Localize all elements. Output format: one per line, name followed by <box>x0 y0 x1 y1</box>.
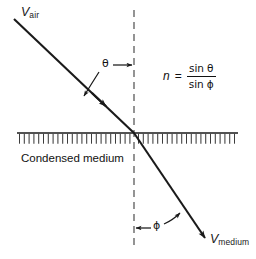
refracted-ray <box>134 133 205 238</box>
refractive-index-formula: n = sin θ sin ϕ <box>163 62 216 91</box>
formula-fraction: sin θ sin ϕ <box>187 62 216 91</box>
refracted-velocity-subscript: medium <box>218 237 249 247</box>
condensed-medium-caption: Condensed medium <box>21 153 124 165</box>
refraction-diagram: Vair Vmedium θ ϕ Condensed medium n = si… <box>0 0 256 259</box>
phi-arc <box>164 213 180 224</box>
formula-denominator-angle: ϕ <box>207 78 214 90</box>
incident-velocity-label: Vair <box>21 6 39 19</box>
formula-numerator-function: sin <box>189 62 204 74</box>
incident-ray <box>14 19 134 133</box>
formula-variable: n <box>163 70 170 82</box>
formula-denominator: sin ϕ <box>187 77 216 91</box>
formula-numerator: sin θ <box>187 62 216 77</box>
refraction-angle-label: ϕ <box>153 220 160 231</box>
formula-numerator-angle: θ <box>207 62 213 74</box>
medium-hatching <box>20 134 235 144</box>
refracted-velocity-label: Vmedium <box>210 233 249 246</box>
diagram-canvas <box>0 0 256 259</box>
formula-equals-sign: = <box>175 70 182 82</box>
incident-ray-direction-arrow <box>92 93 106 106</box>
incidence-angle-label: θ <box>102 58 109 69</box>
formula-denominator-function: sin <box>189 78 204 90</box>
incident-velocity-subscript: air <box>29 10 39 20</box>
